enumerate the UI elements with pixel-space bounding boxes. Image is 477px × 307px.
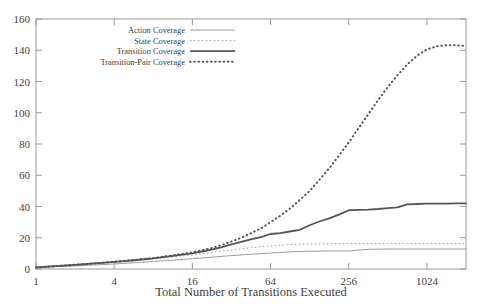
y-tick-label: 40	[19, 201, 31, 213]
axis-tickmarks	[36, 19, 466, 269]
x-tick-label: 4	[111, 275, 117, 287]
y-tick-label: 0	[25, 263, 31, 275]
y-tick-label: 140	[14, 44, 31, 56]
series-line-2	[36, 203, 466, 267]
x-axis-title: Total Number of Transitions Executed	[155, 285, 347, 299]
legend-label-3: Transition-Pair Coverage	[100, 58, 185, 67]
data-series-group	[36, 45, 466, 267]
plot-frame	[36, 19, 466, 269]
series-line-1	[36, 244, 466, 268]
y-tick-label: 80	[19, 138, 31, 150]
y-tick-label: 160	[14, 13, 31, 25]
y-axis-tick-labels: 020406080100120140160	[14, 13, 31, 275]
y-tick-label: 20	[19, 232, 31, 244]
y-tick-label: 120	[14, 76, 31, 88]
series-line-0	[36, 249, 466, 267]
legend-label-2: Transition Coverage	[117, 47, 186, 56]
x-tick-label: 1024	[416, 275, 439, 287]
x-tick-label: 1	[33, 275, 39, 287]
legend-label-0: Action Coverage	[128, 26, 185, 35]
legend-label-1: State Coverage	[134, 37, 185, 46]
chart-canvas: 020406080100120140160 1416642561024 Acti…	[0, 0, 477, 307]
coverage-chart-figure: 020406080100120140160 1416642561024 Acti…	[0, 0, 477, 307]
chart-legend: Action CoverageState CoverageTransition …	[100, 26, 235, 67]
y-tick-label: 100	[14, 107, 31, 119]
y-tick-label: 60	[19, 169, 31, 181]
series-line-3	[36, 45, 466, 267]
